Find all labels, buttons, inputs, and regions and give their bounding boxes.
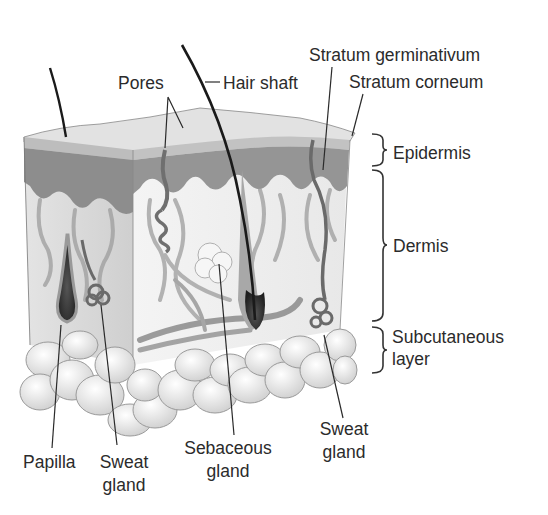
label-dermis: Dermis — [393, 236, 448, 256]
label-pores: Pores — [118, 73, 164, 93]
label-sweat-gland-left-2: gland — [96, 475, 152, 495]
label-subcutaneous-1: Subcutaneous — [392, 327, 504, 347]
label-sebaceous-gland-1: Sebaceous — [180, 438, 276, 458]
label-stratum-corneum: Stratum corneum — [349, 72, 483, 92]
stratum-corneum-leader — [352, 94, 363, 136]
label-hair-shaft: Hair shaft — [223, 73, 298, 93]
layer-brackets — [372, 134, 387, 373]
label-epidermis: Epidermis — [393, 143, 471, 163]
hair-left — [50, 68, 66, 137]
label-sweat-gland-right-2: gland — [314, 442, 374, 462]
label-subcutaneous-2: layer — [392, 349, 430, 369]
label-papilla: Papilla — [23, 452, 76, 472]
label-sebaceous-gland-2: gland — [180, 461, 276, 481]
subcutaneous-bracket — [372, 327, 387, 373]
label-stratum-germinativum: Stratum germinativum — [309, 45, 480, 65]
label-sweat-gland-right-1: Sweat — [314, 419, 374, 439]
dermis-bracket — [372, 170, 387, 321]
label-sweat-gland-left-1: Sweat — [96, 452, 152, 472]
epidermis-bracket — [372, 134, 387, 166]
